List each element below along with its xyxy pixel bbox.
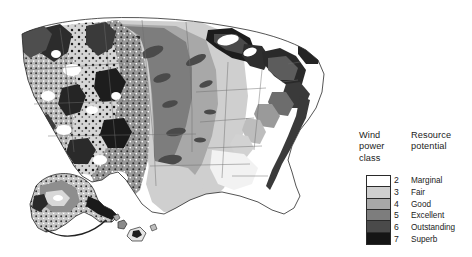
- legend-swatch-class-7: [367, 233, 390, 244]
- legend-class-number: 3: [394, 188, 399, 197]
- wind-resource-figure: Wind power class Resource potential 2 3 …: [0, 0, 472, 257]
- legend-potential-label: Marginal: [411, 176, 442, 185]
- map-legend: Wind power class Resource potential 2 3 …: [357, 130, 472, 250]
- legend-swatch-stack: [366, 175, 391, 245]
- hawaii-inset: [113, 214, 157, 241]
- legend-potential-label: Superb: [411, 235, 437, 244]
- legend-swatch-class-4: [367, 199, 390, 210]
- legend-potential-label: Excellent: [411, 211, 444, 220]
- legend-heading-wind-power-class: Wind power class: [359, 130, 385, 164]
- legend-class-number: 2: [394, 176, 399, 185]
- legend-potential-label: Fair: [411, 188, 425, 197]
- legend-potential-label: Good: [411, 200, 431, 209]
- legend-swatch-class-3: [367, 187, 390, 198]
- legend-class-number: 5: [394, 211, 399, 220]
- legend-swatch-class-2: [367, 176, 390, 187]
- legend-swatch-class-5: [367, 210, 390, 221]
- legend-heading-resource-potential: Resource potential: [411, 130, 451, 153]
- legend-class-number: 6: [394, 223, 399, 232]
- legend-swatch-class-6: [367, 221, 390, 232]
- legend-potential-labels: Marginal Fair Good Excellent Outstanding…: [411, 175, 472, 245]
- legend-potential-label: Outstanding: [411, 223, 455, 232]
- legend-class-number: 4: [394, 200, 399, 209]
- legend-class-number: 7: [394, 235, 399, 244]
- legend-class-numbers: 2 3 4 5 6 7: [394, 175, 408, 245]
- united-states-wind-map: [0, 0, 352, 257]
- map-svg: [0, 0, 352, 257]
- alaska-inset: [20, 165, 130, 240]
